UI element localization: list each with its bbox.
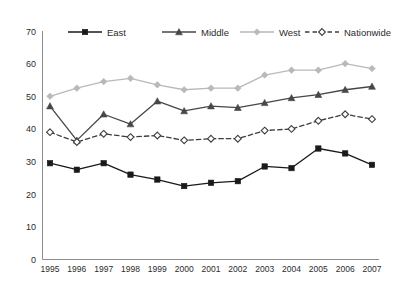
data-point-nationwide-2005 <box>315 117 322 124</box>
data-point-west-2005 <box>315 67 322 74</box>
legend-marker-west <box>254 29 261 36</box>
data-point-east-1997 <box>101 161 106 166</box>
data-point-nationwide-2000 <box>181 137 188 144</box>
series-middle <box>47 83 376 143</box>
data-point-west-2000 <box>181 86 188 93</box>
series-line-middle <box>50 86 372 140</box>
legend-item-east[interactable]: East <box>68 27 126 38</box>
y-tick-label-40: 40 <box>26 124 36 134</box>
x-tick-label-2001: 2001 <box>202 264 221 274</box>
data-point-nationwide-2003 <box>261 127 268 134</box>
data-point-nationwide-1997 <box>100 130 107 137</box>
data-point-west-1995 <box>47 93 54 100</box>
data-point-east-2006 <box>342 151 347 156</box>
data-point-east-1998 <box>128 172 133 177</box>
x-tick-label-2004: 2004 <box>282 264 301 274</box>
data-point-west-1999 <box>154 82 161 89</box>
y-tick-label-50: 50 <box>26 92 36 102</box>
data-point-nationwide-2004 <box>288 126 295 133</box>
data-point-west-2007 <box>369 65 376 72</box>
x-tick-label-1996: 1996 <box>67 264 86 274</box>
data-point-east-2003 <box>262 164 267 169</box>
legend-label-west: West <box>279 27 301 38</box>
x-tick-label-2005: 2005 <box>309 264 328 274</box>
series-east <box>47 146 374 189</box>
data-point-west-2003 <box>261 72 268 79</box>
y-axis-tick-labels: 010203040506070 <box>26 27 36 266</box>
data-point-nationwide-2007 <box>369 116 376 123</box>
data-point-east-2001 <box>208 180 213 185</box>
data-point-east-2005 <box>316 146 321 151</box>
data-point-middle-1997 <box>100 111 107 117</box>
data-point-nationwide-2002 <box>234 135 241 142</box>
chart-canvas: 010203040506070 199519961997199819992000… <box>0 0 393 287</box>
x-tick-label-2006: 2006 <box>336 264 355 274</box>
legend-label-nationwide: Nationwide <box>344 27 391 38</box>
x-tick-label-1997: 1997 <box>94 264 113 274</box>
data-point-nationwide-1996 <box>73 139 80 146</box>
data-point-east-1995 <box>47 161 52 166</box>
data-point-east-2002 <box>235 178 240 183</box>
chart-legend: EastMiddleWestNationwide <box>68 27 391 38</box>
line-chart: 010203040506070 199519961997199819992000… <box>0 0 393 287</box>
data-point-nationwide-1995 <box>47 129 54 136</box>
data-point-nationwide-2001 <box>208 135 215 142</box>
y-tick-label-10: 10 <box>26 222 36 232</box>
data-point-west-1997 <box>100 78 107 85</box>
data-point-middle-1999 <box>154 98 161 104</box>
data-point-east-1996 <box>74 167 79 172</box>
legend-marker-east <box>82 29 87 34</box>
data-point-nationwide-1998 <box>127 134 134 141</box>
y-tick-label-30: 30 <box>26 157 36 167</box>
y-tick-label-60: 60 <box>26 59 36 69</box>
data-point-east-1999 <box>155 177 160 182</box>
x-tick-label-1999: 1999 <box>148 264 167 274</box>
data-point-west-2002 <box>235 85 242 92</box>
axis-lines <box>43 31 380 260</box>
series-layer <box>47 60 376 188</box>
data-point-east-2007 <box>369 162 374 167</box>
data-point-west-2001 <box>208 85 215 92</box>
legend-item-nationwide[interactable]: Nationwide <box>305 27 391 38</box>
legend-label-east: East <box>107 27 126 38</box>
legend-item-middle[interactable]: Middle <box>162 27 229 38</box>
data-point-east-2004 <box>289 165 294 170</box>
data-point-west-2006 <box>342 60 349 67</box>
x-tick-label-1998: 1998 <box>121 264 140 274</box>
data-point-middle-1995 <box>47 103 54 109</box>
x-tick-label-2002: 2002 <box>228 264 247 274</box>
data-point-west-1996 <box>74 85 81 92</box>
x-axis-tick-labels: 1995199619971998199920002001200220032004… <box>41 264 382 274</box>
x-tick-label-1995: 1995 <box>41 264 60 274</box>
data-point-nationwide-1999 <box>154 132 161 139</box>
y-tick-label-20: 20 <box>26 190 36 200</box>
legend-marker-nationwide <box>319 29 326 36</box>
data-point-west-1998 <box>127 75 134 82</box>
data-point-west-2004 <box>288 67 295 74</box>
data-point-nationwide-2006 <box>342 111 349 118</box>
x-tick-label-2007: 2007 <box>363 264 382 274</box>
y-tick-label-0: 0 <box>31 255 36 265</box>
x-tick-label-2000: 2000 <box>175 264 194 274</box>
y-tick-label-70: 70 <box>26 27 36 37</box>
series-nationwide <box>47 111 376 146</box>
x-tick-label-2003: 2003 <box>255 264 274 274</box>
legend-label-middle: Middle <box>201 27 229 38</box>
data-point-east-2000 <box>181 183 186 188</box>
legend-item-west[interactable]: West <box>240 27 301 38</box>
